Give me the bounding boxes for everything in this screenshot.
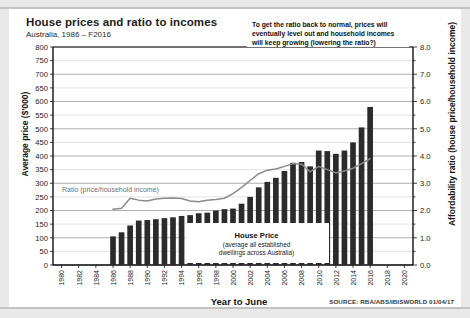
bar [136, 221, 142, 265]
x-axis-tick: 1986 [110, 270, 117, 286]
chart-page: House prices and ratio to incomes Austra… [0, 0, 470, 318]
bar [359, 127, 365, 265]
bar [350, 142, 356, 265]
x-axis-tick: 2006 [281, 270, 288, 286]
y-axis-left-tick: 50 [40, 247, 48, 256]
y-axis-left-tick: 150 [35, 220, 48, 229]
y-axis-left-tick: 550 [35, 111, 48, 120]
x-axis-tick: 2010 [316, 270, 323, 286]
bar [153, 219, 159, 265]
y-axis-left-tick: 400 [35, 152, 48, 161]
house-price-annotation-line3: dwellings across Australia) [184, 249, 329, 257]
bar [110, 236, 116, 265]
bar [342, 151, 348, 265]
y-axis-left-tick: 750 [35, 56, 48, 65]
bar [367, 107, 373, 265]
bar [127, 225, 133, 265]
x-axis-tick: 2004 [264, 270, 271, 286]
y-axis-right-tick: 6.0 [420, 97, 431, 106]
x-axis-tick: 2014 [350, 270, 357, 286]
x-axis-tick: 2020 [401, 270, 408, 286]
x-axis-tick: 2000 [230, 270, 237, 286]
bottom-divider [0, 307, 470, 309]
y-axis-left-tick: 800 [35, 43, 48, 52]
y-axis-left-tick: 450 [35, 138, 48, 147]
bar [144, 220, 150, 265]
ratio-series-label: Ratio (price/household income) [62, 186, 159, 193]
x-axis-tick: 1980 [58, 270, 65, 286]
x-axis-tick: 1996 [196, 270, 203, 286]
y-axis-left-tick: 600 [35, 97, 48, 106]
y-axis-right-tick: 5.0 [420, 125, 431, 134]
y-axis-left-tick: 100 [35, 234, 48, 243]
forecast-annotation: To get the ratio back to normal, prices … [252, 21, 402, 48]
chart-card: House prices and ratio to incomes Austra… [9, 9, 461, 307]
x-axis-tick: 1990 [144, 270, 151, 286]
house-price-annotation-line2: (average all established [184, 241, 329, 249]
bar [162, 218, 168, 265]
bar [170, 217, 176, 265]
ratio-line [113, 159, 370, 209]
x-axis-tick: 2016 [367, 270, 374, 286]
y-axis-left-tick: 250 [35, 193, 48, 202]
y-axis-left-tick: 700 [35, 70, 48, 79]
bar [119, 232, 125, 265]
house-price-annotation: House Price (average all established dwe… [184, 231, 329, 258]
y-axis-left-tick: 300 [35, 179, 48, 188]
house-price-annotation-title: House Price [184, 231, 329, 241]
y-axis-left-tick: 200 [35, 206, 48, 215]
x-axis-tick: 2018 [384, 270, 391, 286]
x-axis-tick: 2008 [298, 270, 305, 286]
y-axis-right-tick: 1.0 [420, 234, 431, 243]
x-axis-tick: 1992 [161, 270, 168, 286]
x-axis-tick: 2012 [333, 270, 340, 286]
chart-plot: 0501001502002503003504004505005506006507… [9, 9, 461, 307]
y-axis-left-tick: 0 [44, 261, 48, 270]
y-axis-right-tick: 8.0 [420, 43, 431, 52]
y-axis-right-tick: 4.0 [420, 152, 431, 161]
x-axis-tick: 1982 [76, 270, 83, 286]
y-axis-right-tick: 3.0 [420, 179, 431, 188]
y-axis-right-tick: 7.0 [420, 70, 431, 79]
x-axis-tick: 1984 [93, 270, 100, 286]
x-axis-tick: 1994 [178, 270, 185, 286]
y-axis-left-tick: 650 [35, 84, 48, 93]
y-axis-left-tick: 350 [35, 165, 48, 174]
y-axis-right-tick: 0.0 [420, 261, 431, 270]
x-axis-tick: 2002 [247, 270, 254, 286]
x-axis-tick: 1988 [127, 270, 134, 286]
y-axis-left-tick: 500 [35, 125, 48, 134]
bar [333, 154, 339, 265]
y-axis-right-tick: 2.0 [420, 206, 431, 215]
x-axis-tick: 1998 [213, 270, 220, 286]
